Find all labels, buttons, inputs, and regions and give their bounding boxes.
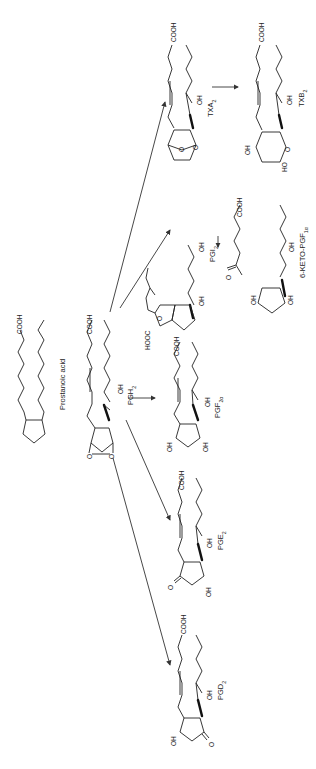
pgh2-name-label: PGH2 [126, 386, 137, 405]
pgi2-oh-label-1: OH [198, 242, 205, 252]
prostanoic-acid-structure [18, 320, 45, 443]
txa2-oh-label: OH [196, 95, 203, 105]
pgf2a-structure [174, 342, 200, 447]
prostanoic-acid-cooh-label: COOH [16, 315, 23, 335]
pgi2-name-label: PGI2 [208, 246, 219, 262]
txa2-cooh-label: COOH [170, 23, 177, 43]
pgd2-o-label: O [208, 742, 215, 747]
pgf2a-cooh-label: COOH [173, 337, 180, 357]
txb2-cooh-label: COOH [258, 23, 265, 43]
txb2-o-label: O [284, 147, 291, 152]
pgd2-oh-label: OH [206, 690, 213, 700]
pgf2a-oh-label-1: OH [204, 397, 211, 407]
6-keto-oh-label-2: OH [250, 295, 257, 305]
prostanoic-acid-name: Prostanoic acid [58, 359, 67, 410]
pge2-name-label: PGE2 [216, 531, 227, 550]
pgf2a-name-label: PGF2α [213, 397, 224, 418]
txb2-ho-label: HO [281, 162, 288, 172]
arrow-pgh2-to-pgi2 [120, 230, 170, 308]
arrow-pgh2-to-pge2 [126, 420, 170, 520]
txa2-o-label-1: O [178, 147, 185, 152]
txa2-structure [168, 45, 196, 160]
pge2-cooh-label: COOH [178, 471, 185, 491]
txb2-structure [256, 45, 286, 162]
pgf2a-oh-label-2: OH [166, 442, 173, 452]
txa2-o-label-2: O [192, 145, 199, 150]
txb2-oh-label-2: OH [244, 145, 251, 155]
prostaglandin-pathway-figure: COOH Prostanoic acid COOH OH PGH2 O O CO… [0, 0, 316, 769]
pgd2-name-label: PGD2 [216, 681, 227, 700]
6-keto-cooh-label: COOH [236, 198, 243, 218]
pgi2-oh-label-2: OH [198, 296, 205, 306]
pgd2-cooh-label: COOH [180, 615, 187, 635]
pgh2-structure [87, 320, 113, 454]
6-keto-pgf1a-name-label: 6-KETO-PGF1α [298, 227, 309, 278]
txb2-oh-label: OH [286, 95, 293, 105]
6-keto-oh-label-1: OH [288, 242, 295, 252]
pgd2-ho-label: OH [170, 736, 177, 746]
pgh2-o-label-1: O [86, 454, 93, 459]
arrow-pgh2-to-pgd2 [113, 458, 170, 665]
6-keto-oh-label-3: OH [287, 295, 294, 305]
pge2-oh-label-1: OH [206, 538, 213, 548]
txa2-name-label: TXA2 [206, 99, 217, 117]
pgh2-o-label-2: O [108, 454, 115, 459]
pgi2-o-label: O [156, 316, 163, 321]
pgi2-structure [146, 245, 195, 330]
pgf2a-oh-label-3: OH [202, 442, 209, 452]
pgh2-cooh-label: COOH [86, 315, 93, 335]
pathway-drawing [0, 0, 316, 769]
pge2-o-label: O [167, 585, 174, 590]
pgh2-oh-label: OH [117, 384, 124, 394]
6-keto-o-label: O [225, 275, 232, 280]
pgi2-hooc-label: HOOC [144, 331, 151, 351]
pgd2-structure [178, 635, 209, 741]
pathway-arrows [110, 87, 238, 665]
pge2-structure [174, 478, 204, 585]
pge2-oh-label-2: OH [205, 587, 212, 597]
txb2-name-label: TXB2 [297, 89, 308, 107]
